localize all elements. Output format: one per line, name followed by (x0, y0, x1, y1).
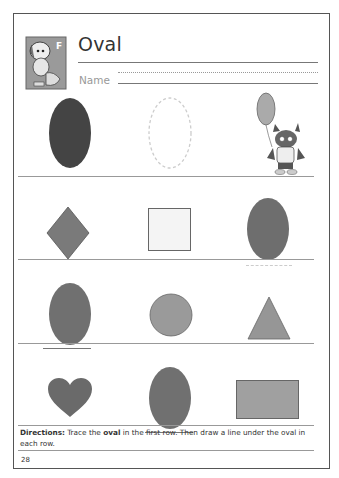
rectangle-shape (236, 380, 300, 420)
diamond-shape (46, 206, 90, 260)
page-title: Oval (78, 33, 122, 55)
footer-divider (18, 450, 314, 451)
directions-text: Directions: Trace the oval in the first … (20, 427, 310, 449)
name-line[interactable] (118, 83, 318, 84)
oval-shape-row3[interactable] (48, 282, 92, 346)
title-rule (78, 62, 318, 63)
directions-bold-word: oval (103, 428, 120, 437)
oval-shape-row2[interactable] (246, 197, 290, 261)
bat-mascot-balloon-icon (251, 92, 311, 178)
svg-text:F: F (56, 41, 62, 51)
oval-dark-shape (48, 97, 92, 169)
triangle-shape (247, 296, 291, 340)
oval-underline-row3 (43, 348, 91, 349)
circle-shape (149, 293, 193, 337)
row-divider-3 (18, 343, 314, 344)
directions-part-1: Trace the (65, 428, 103, 437)
page-number: 28 (21, 456, 30, 464)
oval-underline-dotted (246, 265, 292, 266)
heart-shape (47, 378, 93, 418)
oval-trace-dashed[interactable] (148, 97, 192, 169)
worksheet-page: F Oval Name (13, 13, 330, 469)
directions-divider (18, 425, 314, 426)
square-shape (148, 208, 192, 252)
name-label: Name (79, 74, 110, 86)
oval-shape-row4[interactable] (148, 366, 192, 430)
puppy-mascot-icon: F (26, 37, 68, 91)
name-guide-dotted (118, 72, 318, 73)
directions-label: Directions: (20, 428, 65, 437)
row-divider-1 (18, 176, 314, 177)
row-divider-2 (18, 259, 314, 260)
